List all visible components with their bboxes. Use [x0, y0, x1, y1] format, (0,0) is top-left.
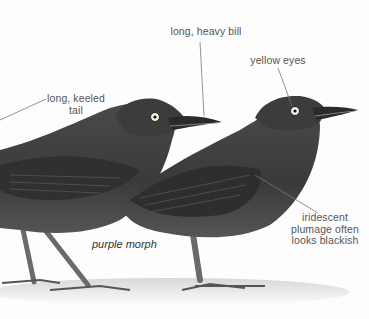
annotation-eyes: yellow eyes	[248, 55, 308, 67]
annotation-bill: long, heavy bill	[166, 26, 246, 38]
annotation-plumage-line3: looks blackish	[282, 235, 368, 247]
leader-bill	[200, 42, 204, 116]
bird-illustration	[0, 0, 369, 319]
annotation-plumage: iridescent plumage often looks blackish	[282, 212, 368, 247]
annotation-tail-line1: long, keeled	[45, 93, 107, 105]
annotation-plumage-line1: iridescent	[282, 212, 368, 224]
annotation-tail: long, keeled tail	[45, 93, 107, 116]
morph-caption: purple morph	[92, 238, 157, 250]
annotation-tail-line2: tail	[45, 105, 107, 117]
leader-tail	[0, 99, 46, 120]
